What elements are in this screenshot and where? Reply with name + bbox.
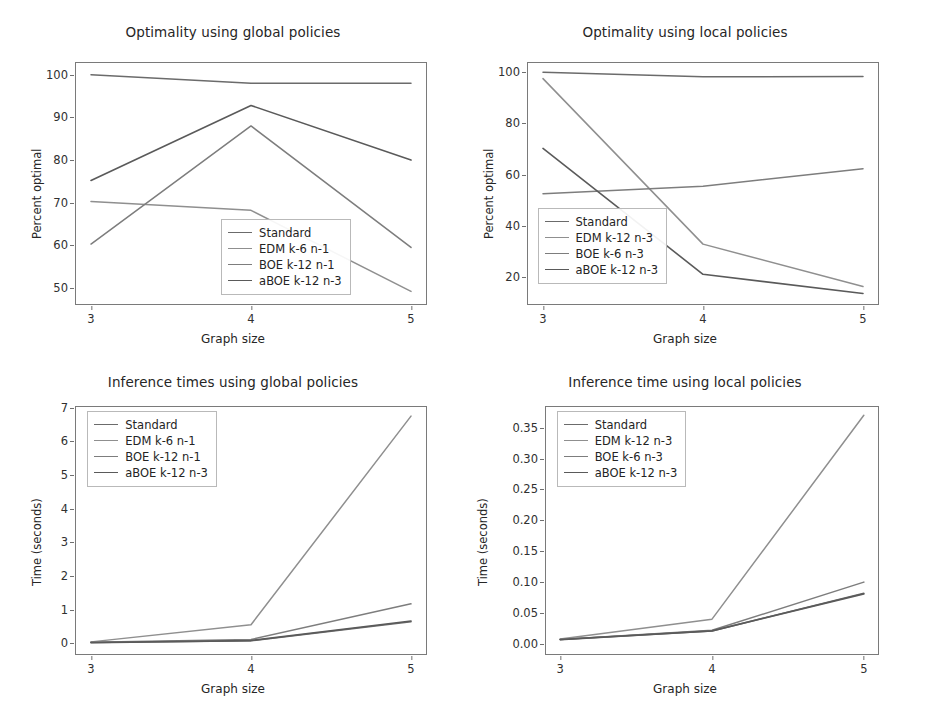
y-axis-tick-mark	[522, 72, 526, 73]
x-axis-tick-mark	[411, 656, 412, 660]
legend-item[interactable]: EDM k-6 n-1	[228, 241, 342, 257]
y-axis-label: Percent optimal	[30, 149, 44, 239]
legend-line-swatch	[545, 269, 569, 270]
y-axis-tick-mark	[540, 582, 544, 583]
y-axis-tick: 80	[53, 153, 68, 167]
y-axis-tick-mark	[70, 75, 74, 76]
y-axis-tick: 7	[61, 401, 68, 415]
y-axis-tick-label: 2	[61, 569, 68, 583]
y-axis-tick-mark	[540, 551, 544, 552]
legend-item-label: BOE k-6 n-3	[595, 449, 663, 465]
y-axis-tick-label: 70	[53, 196, 68, 210]
x-axis-tick-label: 3	[539, 312, 546, 326]
chart-legend: StandardEDM k-12 n-3BOE k-6 n-3aBOE k-12…	[538, 208, 668, 284]
y-axis-tick: 2	[61, 569, 68, 583]
legend-item-label: BOE k-6 n-3	[576, 246, 644, 262]
y-axis-tick-label: 0.30	[512, 452, 538, 466]
y-axis-tick-label: 50	[53, 281, 68, 295]
y-axis-tick-mark	[70, 160, 74, 161]
y-axis-tick-label: 20	[505, 270, 520, 284]
legend-item[interactable]: EDM k-6 n-1	[94, 433, 208, 449]
y-axis-label: Time (seconds)	[30, 498, 44, 586]
x-axis-label: Graph size	[470, 682, 900, 696]
legend-item[interactable]: EDM k-12 n-3	[545, 230, 659, 246]
x-axis-tick: 4	[699, 312, 706, 326]
y-axis-tick: 0.35	[512, 421, 538, 435]
legend-line-swatch	[228, 264, 252, 265]
legend-item[interactable]: aBOE k-12 n-3	[545, 262, 659, 278]
x-axis-tick: 3	[87, 662, 94, 676]
legend-line-swatch	[94, 424, 118, 425]
legend-line-swatch	[228, 248, 252, 249]
y-axis-tick-mark	[540, 459, 544, 460]
y-axis-tick: 40	[505, 219, 520, 233]
legend-item[interactable]: Standard	[545, 214, 659, 230]
x-axis-tick-label: 4	[708, 662, 715, 676]
legend-item-label: Standard	[259, 225, 311, 241]
y-axis-tick: 90	[53, 110, 68, 124]
y-axis-tick-label: 60	[53, 238, 68, 252]
legend-line-swatch	[564, 456, 588, 457]
x-axis-tick-mark	[560, 656, 561, 660]
y-axis-tick-mark	[522, 123, 526, 124]
legend-item-label: aBOE k-12 n-3	[259, 273, 342, 289]
y-axis-tick: 0.05	[512, 606, 538, 620]
y-axis-tick-mark	[70, 203, 74, 204]
x-axis-tick-mark	[703, 306, 704, 310]
y-axis-tick-mark	[70, 117, 74, 118]
legend-line-swatch	[228, 232, 252, 233]
legend-item[interactable]: BOE k-12 n-1	[94, 449, 208, 465]
y-axis-tick-mark	[522, 226, 526, 227]
y-axis-tick-label: 0.00	[512, 637, 538, 651]
y-axis-tick-mark	[70, 576, 74, 577]
legend-item[interactable]: Standard	[228, 225, 342, 241]
y-axis-tick: 0.30	[512, 452, 538, 466]
x-axis-tick-label: 4	[247, 662, 254, 676]
x-axis-tick-mark	[251, 656, 252, 660]
y-axis-tick-mark	[70, 441, 74, 442]
legend-item[interactable]: BOE k-6 n-3	[545, 246, 659, 262]
legend-item[interactable]: BOE k-6 n-3	[564, 449, 678, 465]
y-axis-tick: 4	[61, 502, 68, 516]
legend-item-label: BOE k-12 n-1	[125, 449, 201, 465]
y-axis-tick-mark	[70, 542, 74, 543]
legend-item[interactable]: aBOE k-12 n-3	[94, 465, 208, 481]
legend-item-label: BOE k-12 n-1	[259, 257, 335, 273]
legend-line-swatch	[564, 440, 588, 441]
y-axis-tick-label: 5	[61, 468, 68, 482]
y-axis-tick-mark	[540, 489, 544, 490]
x-axis-tick-label: 3	[557, 662, 564, 676]
y-axis-tick-mark	[540, 613, 544, 614]
legend-line-swatch	[228, 280, 252, 281]
x-axis-tick-label: 3	[87, 312, 94, 326]
legend-line-swatch	[94, 456, 118, 457]
series-line	[543, 72, 863, 77]
legend-item-label: Standard	[125, 417, 177, 433]
y-axis-tick-label: 90	[53, 110, 68, 124]
y-axis-tick: 1	[61, 603, 68, 617]
x-axis-tick-mark	[91, 656, 92, 660]
legend-item[interactable]: aBOE k-12 n-3	[564, 465, 678, 481]
legend-item[interactable]: BOE k-12 n-1	[228, 257, 342, 273]
x-axis-tick-label: 5	[859, 312, 866, 326]
y-axis-tick: 20	[505, 270, 520, 284]
chart-legend: StandardEDM k-6 n-1BOE k-12 n-1aBOE k-12…	[87, 411, 217, 487]
x-axis-label: Graph size	[18, 332, 448, 346]
legend-item[interactable]: EDM k-12 n-3	[564, 433, 678, 449]
legend-item-label: EDM k-12 n-3	[576, 230, 654, 246]
y-axis-tick: 0.00	[512, 637, 538, 651]
plot-area: 5060708090100345StandardEDM k-6 n-1BOE k…	[75, 62, 427, 305]
legend-line-swatch	[545, 237, 569, 238]
legend-line-swatch	[564, 472, 588, 473]
y-axis-tick: 60	[53, 238, 68, 252]
chart-legend: StandardEDM k-12 n-3BOE k-6 n-3aBOE k-12…	[557, 411, 687, 487]
x-axis-tick: 5	[407, 312, 414, 326]
y-axis-tick-label: 6	[61, 434, 68, 448]
legend-item-label: EDM k-6 n-1	[259, 241, 329, 257]
chart-panel-optimality-global: Optimality using global policies Percent…	[18, 24, 448, 354]
x-axis-tick: 3	[557, 662, 564, 676]
y-axis-tick-mark	[70, 643, 74, 644]
legend-item[interactable]: aBOE k-12 n-3	[228, 273, 342, 289]
legend-item[interactable]: Standard	[564, 417, 678, 433]
legend-item[interactable]: Standard	[94, 417, 208, 433]
